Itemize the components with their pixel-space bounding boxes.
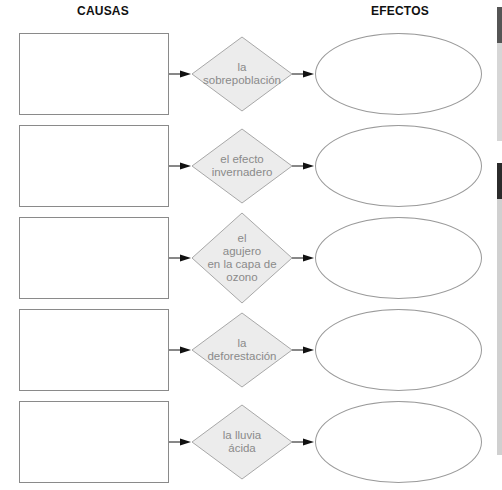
- topic-line: agujero: [223, 245, 261, 258]
- side-tab-dark-1: [497, 7, 502, 43]
- arrow-icon: [180, 439, 191, 446]
- effect-ellipse[interactable]: [315, 217, 482, 299]
- topic-line: el: [238, 232, 247, 245]
- cause-effect-row: lasobrepoblación: [0, 33, 490, 117]
- side-tab-light-1: [497, 43, 502, 141]
- side-tab-light-2: [497, 199, 502, 455]
- effect-ellipse[interactable]: [315, 309, 482, 391]
- arrow-icon: [303, 163, 314, 170]
- cause-effect-row: la lluviaácida: [0, 401, 490, 485]
- arrow-icon: [180, 347, 191, 354]
- cause-effect-row: ladeforestación: [0, 309, 490, 393]
- header-causes: CAUSAS: [68, 4, 138, 18]
- arrow-icon: [180, 255, 191, 262]
- topic-line: deforestación: [207, 350, 276, 363]
- arrow-icon: [303, 439, 314, 446]
- topic-label: el efectoinvernadero: [192, 129, 292, 203]
- topic-label: lasobrepoblación: [192, 37, 292, 111]
- topic-line: la: [238, 337, 247, 350]
- topic-label: elagujeroen la capa deozono: [192, 213, 292, 303]
- topic-line: ozono: [226, 271, 257, 284]
- topic-label: ladeforestación: [192, 313, 292, 387]
- topic-line: en la capa de: [207, 258, 276, 271]
- topic-label: la lluviaácida: [192, 405, 292, 479]
- topic-line: ácida: [228, 442, 256, 455]
- effect-ellipse[interactable]: [315, 401, 482, 483]
- effect-ellipse[interactable]: [315, 125, 482, 207]
- topic-line: invernadero: [212, 166, 273, 179]
- arrow-icon: [303, 71, 314, 78]
- cause-effect-row: elagujeroen la capa deozono: [0, 217, 490, 301]
- topic-line: la lluvia: [223, 429, 261, 442]
- arrow-icon: [180, 163, 191, 170]
- topic-line: sobrepoblación: [203, 74, 281, 87]
- arrow-icon: [180, 71, 191, 78]
- header-effects: EFECTOS: [352, 4, 448, 18]
- effect-ellipse[interactable]: [315, 33, 482, 115]
- cause-effect-row: el efectoinvernadero: [0, 125, 490, 209]
- arrow-icon: [303, 255, 314, 262]
- topic-line: la: [238, 61, 247, 74]
- arrow-icon: [303, 347, 314, 354]
- side-tab-dark-2: [497, 163, 502, 199]
- topic-line: el efecto: [220, 153, 263, 166]
